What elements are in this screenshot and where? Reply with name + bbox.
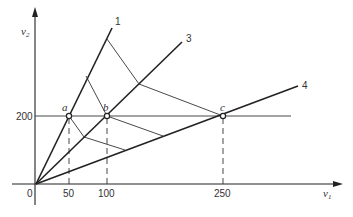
ray-3 bbox=[36, 42, 182, 184]
construction-lines bbox=[69, 39, 223, 150]
point-a-label: a bbox=[62, 101, 68, 113]
x-tick-100: 100 bbox=[98, 188, 115, 199]
y-axis-arrow-icon bbox=[32, 7, 38, 17]
ray-4-label: 4 bbox=[302, 80, 308, 91]
y-tick-200: 200 bbox=[16, 111, 33, 122]
ray-3-label: 3 bbox=[186, 33, 192, 44]
vector-diagram: a b c 1 3 4 200 0 50 100 250 v2 v1 bbox=[0, 0, 353, 217]
x-tick-50: 50 bbox=[63, 188, 75, 199]
point-c bbox=[220, 113, 225, 118]
ray-4 bbox=[36, 86, 298, 184]
point-b-label: b bbox=[103, 101, 109, 113]
point-c-label: c bbox=[220, 101, 225, 113]
x-tick-250: 250 bbox=[214, 188, 231, 199]
point-b bbox=[104, 113, 109, 118]
point-a bbox=[66, 113, 71, 118]
dashed-guides bbox=[69, 118, 223, 184]
ray-1-label: 1 bbox=[115, 16, 121, 27]
x-axis-arrow-icon bbox=[333, 181, 343, 187]
axes bbox=[12, 12, 338, 205]
rays bbox=[36, 28, 298, 184]
y-axis-label: v2 bbox=[21, 25, 30, 39]
origin-label: 0 bbox=[27, 188, 33, 199]
x-axis-label: v1 bbox=[323, 187, 331, 201]
